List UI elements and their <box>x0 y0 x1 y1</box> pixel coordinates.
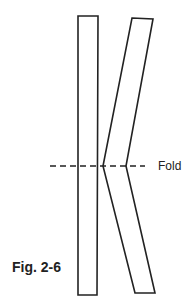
straight-strip <box>78 16 98 295</box>
folded-strip <box>103 18 155 293</box>
fold-label: Fold <box>158 159 181 173</box>
figure-label: Fig. 2-6 <box>12 259 61 275</box>
